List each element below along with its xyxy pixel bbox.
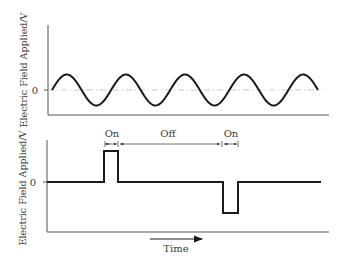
off-label: Off bbox=[160, 128, 176, 139]
on-label-2: On bbox=[224, 128, 239, 139]
bottom-zero-label: 0 bbox=[30, 177, 36, 188]
top-panel: 0 Electric Field Applied/V bbox=[18, 12, 329, 127]
on-label-1: On bbox=[105, 128, 120, 139]
diagram: 0 Electric Field Applied/V 0 Electric Fi… bbox=[0, 0, 347, 263]
time-label: Time bbox=[163, 243, 188, 254]
top-y-axis-label: Electric Field Applied/V bbox=[18, 12, 29, 127]
top-zero-label: 0 bbox=[32, 85, 38, 96]
bottom-panel: 0 Electric Field Applied/V On Off On Tim… bbox=[17, 128, 329, 254]
bottom-y-axis-label: Electric Field Applied/V bbox=[17, 130, 28, 245]
pulse-waveform bbox=[47, 151, 321, 213]
